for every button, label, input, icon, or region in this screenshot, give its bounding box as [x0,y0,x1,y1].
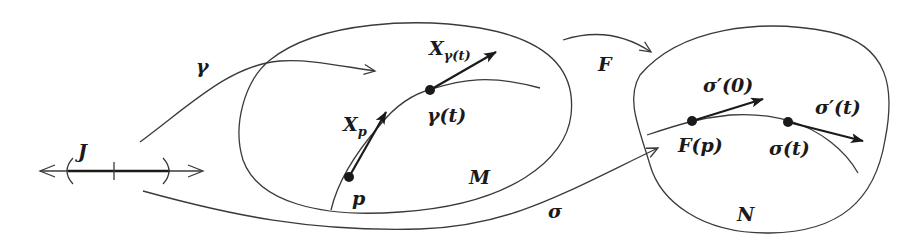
label-sigma-prime-t: σ′(t) [815,96,861,118]
label-Xp: Xp [342,113,367,139]
label-F-p: F(p) [677,134,723,156]
label-F: F [597,53,613,75]
interval-J [40,158,203,184]
point-F-p [687,116,697,126]
point-gamma-t [425,85,435,95]
sigma-map-arrow [143,148,658,229]
label-gamma: γ [196,55,210,77]
point-sigma-t [783,117,793,127]
tangent-vector-sigma-prime-0 [692,99,763,121]
label-sigma-t: σ(t) [769,137,810,159]
label-sigma: σ [548,200,563,222]
label-sigma-prime-0: σ′(0) [703,74,753,96]
point-p [344,172,354,182]
label-J: J [75,140,89,162]
label-N: N [736,203,755,225]
label-X-gamma-t: Xγ(t) [428,37,471,63]
label-p: p [352,187,366,209]
manifold-N-boundary [634,26,889,233]
label-gamma-t: γ(t) [427,104,466,126]
manifold-M-boundary [239,23,572,213]
diagram-canvas: J γ F σ M N p Xp Xγ(t) γ(t) F(p) σ(t) σ′… [0,0,913,243]
label-M: M [468,166,491,188]
F-map-arrow [563,35,651,52]
